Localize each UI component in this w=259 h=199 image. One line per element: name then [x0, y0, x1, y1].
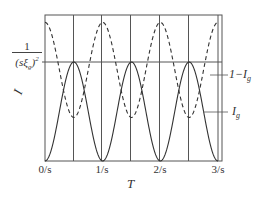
- y-ref-denominator: (sξg)2: [12, 53, 42, 73]
- y-reference-label: 1 (sξg)2: [12, 40, 42, 73]
- series-1-minus-ig-dashed: [45, 22, 218, 117]
- x-axis-label: T: [127, 176, 134, 192]
- y-ref-numerator: 1: [12, 40, 42, 53]
- annotation-ig: Ig: [232, 104, 240, 120]
- plot-frame: [45, 15, 222, 161]
- x-tick-0: 0/s: [39, 163, 52, 175]
- x-tick-2: 2/s: [154, 163, 167, 175]
- x-tick-1: 1/s: [96, 163, 109, 175]
- annotation-1-minus-ig: 1−Ig: [229, 67, 251, 83]
- x-tick-3: 3/s: [212, 163, 225, 175]
- series-ig-solid: [45, 62, 218, 161]
